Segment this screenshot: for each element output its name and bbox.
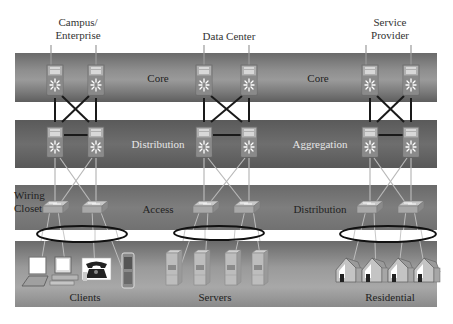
server-icon-4 xyxy=(252,250,268,285)
core-switch-campus-2 xyxy=(88,65,104,95)
layer-label-core-provider: Core xyxy=(298,72,338,85)
aggregation-switch-provider-2 xyxy=(403,127,419,157)
distribution-switch-campus-1 xyxy=(47,127,63,157)
endpoint-label-servers: Servers xyxy=(190,291,240,304)
wiring-closet-label: Wiring Closet xyxy=(14,189,50,215)
access-switch-datacenter-1 xyxy=(193,201,219,213)
wiring-closet-label-line2: Closet xyxy=(14,202,50,215)
network-diagram-canvas xyxy=(0,0,453,324)
server-icon-3 xyxy=(225,250,241,285)
layer-label-distribution-campus: Distribution xyxy=(118,138,198,151)
mobile-phone-icon xyxy=(122,253,134,288)
server-icon-2 xyxy=(194,250,210,285)
laptop-icon xyxy=(22,257,48,286)
layer-label-aggregation-provider: Aggregation xyxy=(280,138,360,151)
core-switch-provider-2 xyxy=(403,65,419,95)
server-icon-1 xyxy=(166,250,182,285)
distribution-switch-datacenter-2 xyxy=(241,127,257,157)
endpoint-label-residential: Residential xyxy=(360,291,420,304)
access-switch-datacenter-2 xyxy=(234,201,260,213)
distribution-switch-provider-2 xyxy=(398,201,424,213)
distribution-switch-provider-1 xyxy=(357,201,383,213)
distribution-switch-campus-2 xyxy=(88,127,104,157)
telephone-icon xyxy=(82,258,111,281)
wiring-closet-label-line1: Wiring xyxy=(14,189,50,202)
uplink-lines xyxy=(51,45,411,70)
house-icon-2 xyxy=(362,258,388,282)
core-switch-provider-1 xyxy=(362,65,378,95)
distribution-access-links xyxy=(55,158,411,205)
endpoint-label-clients: Clients xyxy=(60,291,110,304)
core-switch-datacenter-2 xyxy=(241,65,257,95)
core-switch-datacenter-1 xyxy=(196,65,212,95)
layer-label-core-campus: Core xyxy=(138,72,178,85)
layer-label-distribution-provider: Distribution xyxy=(280,203,360,216)
desktop-computer-icon xyxy=(50,257,78,285)
house-icon-1 xyxy=(336,258,362,282)
aggregation-switch-provider-1 xyxy=(362,127,378,157)
distribution-switch-datacenter-1 xyxy=(196,127,212,157)
core-switch-campus-1 xyxy=(47,65,63,95)
house-icon-3 xyxy=(388,258,414,282)
access-switch-campus-2 xyxy=(82,201,108,213)
core-distribution-links xyxy=(55,96,411,135)
house-icon-4 xyxy=(414,258,440,282)
layer-label-access-campus: Access xyxy=(128,203,188,216)
